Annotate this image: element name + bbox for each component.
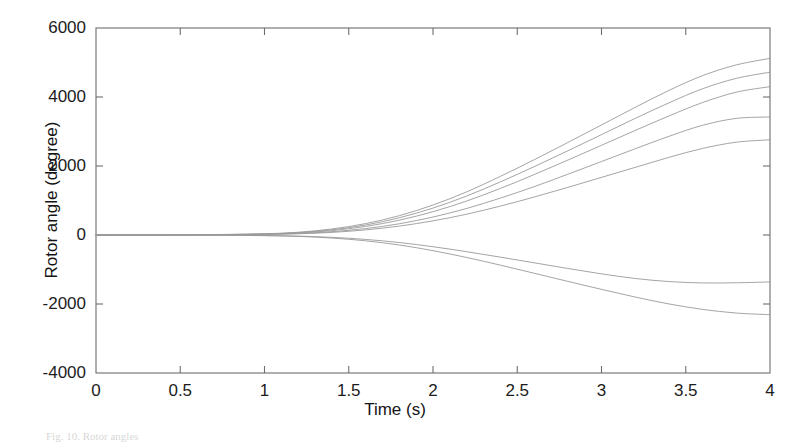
series-line-generator-6 — [96, 235, 770, 283]
y-tick-label: 4000 — [48, 87, 86, 107]
plot-svg — [0, 0, 790, 442]
y-tick-label: -4000 — [43, 363, 86, 383]
y-tick-label: 6000 — [48, 18, 86, 38]
x-tick-label: 3 — [597, 381, 606, 401]
series-line-generator-5 — [96, 140, 770, 235]
series-line-generator-2 — [96, 72, 770, 235]
x-tick-label: 0 — [91, 381, 100, 401]
x-tick-label: 1 — [260, 381, 269, 401]
x-axis-label: Time (s) — [0, 400, 790, 420]
y-tick-label: 0 — [77, 225, 86, 245]
figure-caption: Fig. 10. Rotor angles — [46, 430, 139, 442]
y-tick-label: -2000 — [43, 294, 86, 314]
axes-frame — [96, 28, 770, 373]
x-tick-label: 2 — [428, 381, 437, 401]
series-line-generator-4 — [96, 117, 770, 235]
series-group — [96, 58, 770, 314]
series-line-generator-3 — [96, 87, 770, 235]
y-tick-label: 2000 — [48, 156, 86, 176]
x-tick-label: 2.5 — [505, 381, 529, 401]
x-tick-label: 4 — [765, 381, 774, 401]
x-tick-label: 1.5 — [337, 381, 361, 401]
x-tick-label: 3.5 — [674, 381, 698, 401]
figure-canvas: -4000-20000200040006000 00.511.522.533.5… — [0, 0, 790, 442]
tick-marks-group — [96, 28, 770, 373]
x-tick-label: 0.5 — [168, 381, 192, 401]
